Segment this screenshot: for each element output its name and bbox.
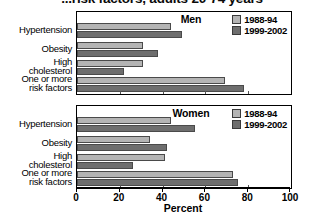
- category-label-risk_factors: One or morerisk factors: [0, 168, 72, 187]
- bar: [77, 171, 233, 178]
- x-axis-inner-tick: [163, 91, 164, 94]
- bar: [77, 85, 244, 92]
- bar: [77, 117, 171, 124]
- category-label-line: Hypertension: [0, 119, 72, 129]
- bar: [77, 50, 158, 57]
- bar: [77, 136, 150, 143]
- category-label-obesity: Obesity: [0, 44, 72, 54]
- category-label-line: risk factors: [0, 177, 72, 187]
- bar-groups-women: [77, 106, 291, 188]
- category-label-line: Hypertension: [0, 25, 72, 35]
- category-label-hypertension: Hypertension: [0, 119, 72, 129]
- bar: [77, 42, 143, 49]
- x-axis-inner-tick: [205, 91, 206, 94]
- category-label-hypertension: Hypertension: [0, 25, 72, 35]
- bar-groups-men: [77, 12, 291, 94]
- bar: [77, 144, 167, 151]
- category-label-obesity: Obesity: [0, 138, 72, 148]
- category-label-line: Obesity: [0, 138, 72, 148]
- bar: [77, 154, 165, 161]
- chart-panel-men: Men 1988-94 1999-2002: [76, 11, 292, 95]
- bar: [77, 60, 143, 67]
- bar: [77, 23, 171, 30]
- x-axis: 020406080100: [76, 187, 290, 189]
- chart-panel-women: Women 1988-94 1999-2002: [76, 105, 292, 189]
- category-label-risk_factors: One or morerisk factors: [0, 74, 72, 93]
- category-label-line: Obesity: [0, 44, 72, 54]
- bar: [77, 162, 133, 169]
- x-axis-inner-tick: [120, 91, 121, 94]
- bar: [77, 31, 182, 38]
- bar: [77, 77, 225, 84]
- page-title: ...risk factors, adults 20-74 years: [0, 0, 324, 6]
- x-axis-title: Percent: [76, 202, 290, 214]
- bar: [77, 179, 238, 186]
- x-axis-inner-tick: [248, 91, 249, 94]
- bar: [77, 68, 124, 75]
- bar: [77, 125, 195, 132]
- category-label-line: risk factors: [0, 83, 72, 93]
